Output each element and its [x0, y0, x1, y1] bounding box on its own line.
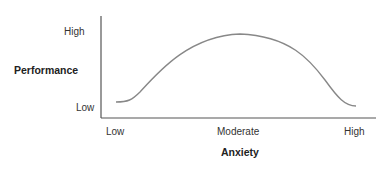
x-tick-moderate: Moderate — [217, 126, 259, 137]
x-axis-title: Anxiety — [221, 146, 259, 158]
x-tick-low: Low — [106, 126, 124, 137]
x-tick-high: High — [344, 126, 365, 137]
y-tick-high: High — [64, 26, 85, 37]
performance-curve — [116, 34, 356, 106]
chart-canvas — [0, 0, 386, 172]
y-axis-title: Performance — [14, 64, 78, 76]
y-tick-low: Low — [76, 102, 94, 113]
